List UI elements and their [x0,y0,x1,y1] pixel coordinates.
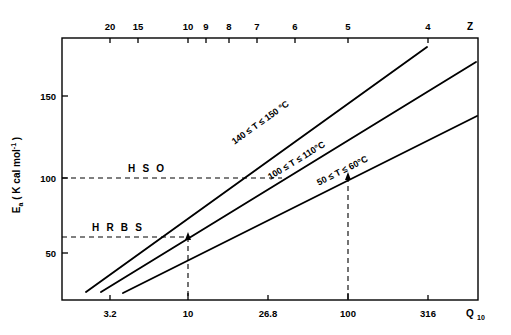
x-tick-label-3: 100 [340,308,356,319]
y-axis-ticks [62,96,68,253]
y-tick-label-50: 50 [45,248,56,259]
y-axis-title-unit-close: ) [11,137,22,143]
top-tick-label-3: 9 [203,21,208,32]
series-label-140-150: 140 ≤ T ≤ 150 °C [230,98,291,146]
annotation-hrbs-label: H R B S [92,222,144,233]
y-tick-label-100: 100 [40,173,56,184]
curve-50-60 [123,116,477,293]
top-tick-label-4: 8 [226,21,231,32]
series-label-100-110-group: 100 ≤ T ≤ 110°C [266,139,327,182]
bottom-axis-ticks [110,293,428,300]
series-label-140-150-group: 140 ≤ T ≤ 150 °C [230,98,291,146]
y-axis-title: Ea ( K cal mol-1 ) [10,137,24,213]
top-tick-label-8: 4 [425,21,431,32]
x-axis-title-symbol: Q [466,308,474,319]
top-tick-label-1: 15 [133,21,144,32]
top-axis-labels: 20 15 10 9 8 7 6 5 4 Z [105,21,473,32]
top-tick-label-5: 7 [254,21,259,32]
bottom-axis-labels: 3.2 10 26.8 100 316 [103,308,436,319]
series-label-100-110: 100 ≤ T ≤ 110°C [266,139,327,182]
top-tick-label-0: 20 [105,21,116,32]
top-tick-label-2: 10 [183,21,194,32]
annotation-hso-label: H S O [128,163,166,174]
svg-text:Ea ( K cal mol-1 ): Ea ( K cal mol-1 ) [10,137,24,213]
chart-figure: 20 15 10 9 8 7 6 5 4 Z 3.2 10 26.8 100 3… [0,0,511,335]
x-tick-label-0: 3.2 [103,308,116,319]
curve-100-110 [101,62,476,292]
x-tick-label-1: 10 [183,308,194,319]
x-tick-label-2: 26.8 [259,308,278,319]
y-tick-label-150: 150 [40,91,56,102]
x-tick-label-4: 316 [420,308,436,319]
y-axis-title-unit-open: ( K cal mol [11,149,22,203]
top-axis-title: Z [467,21,473,32]
x-axis-title-subscript: 10 [477,314,485,321]
top-axis-ticks [110,38,428,43]
top-tick-label-7: 5 [345,21,351,32]
x-axis-title: Q 10 [466,308,485,321]
y-axis-labels: 150 100 50 [40,91,56,259]
plot-frame [62,38,478,300]
chart-svg: 20 15 10 9 8 7 6 5 4 Z 3.2 10 26.8 100 3… [0,0,511,335]
top-tick-label-6: 6 [292,21,297,32]
